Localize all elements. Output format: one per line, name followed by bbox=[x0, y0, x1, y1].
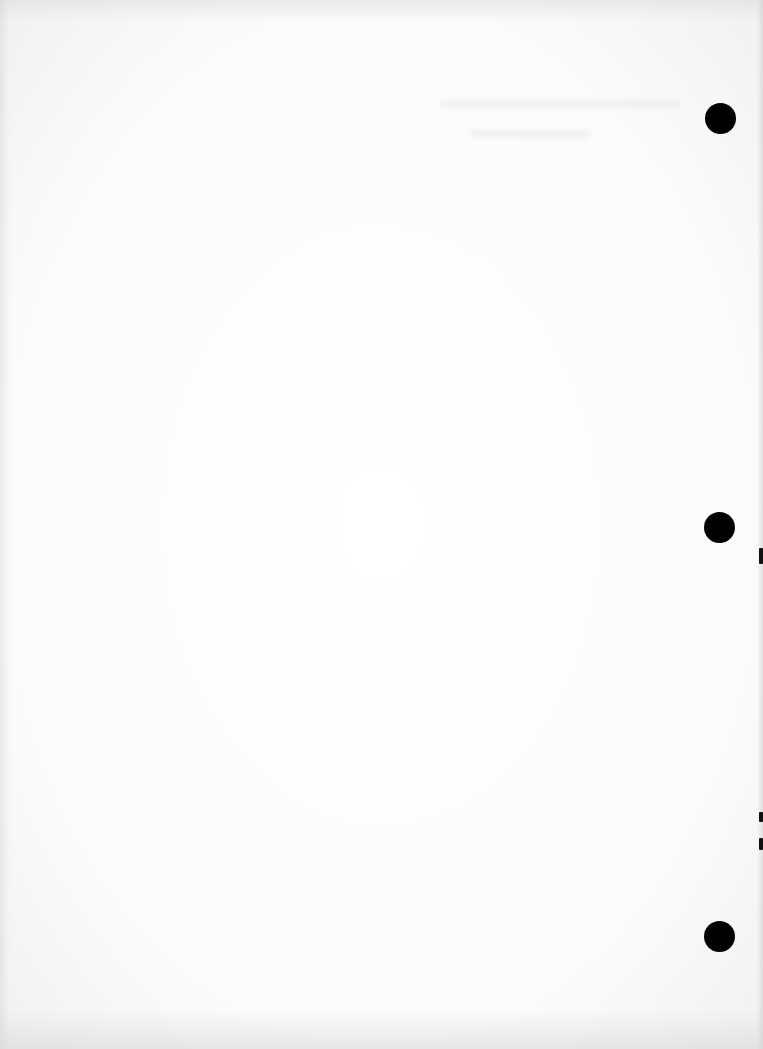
edge-mark bbox=[759, 548, 763, 564]
scanned-page bbox=[0, 0, 763, 1049]
punch-hole-middle bbox=[704, 512, 735, 543]
scan-shadow-left bbox=[0, 0, 10, 1049]
bleed-through-text bbox=[470, 130, 590, 138]
edge-mark bbox=[759, 812, 763, 822]
scan-shadow-right bbox=[757, 0, 763, 1049]
scan-shadow-top bbox=[0, 0, 763, 22]
punch-hole-bottom bbox=[704, 921, 735, 952]
scan-shadow-bottom bbox=[0, 1009, 763, 1049]
bleed-through-text bbox=[440, 100, 680, 108]
edge-mark bbox=[759, 838, 763, 850]
punch-hole-top bbox=[705, 103, 736, 134]
